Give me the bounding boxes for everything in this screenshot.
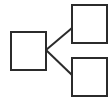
node-child-bottom: [72, 58, 107, 96]
edge-parent-to-child-top: [46, 28, 72, 50]
node-child-top: [72, 5, 107, 43]
tree-diagram: [0, 0, 112, 98]
hierarchy-icon: [0, 0, 112, 98]
node-parent: [11, 32, 46, 70]
edge-parent-to-child-bottom: [46, 50, 72, 75]
